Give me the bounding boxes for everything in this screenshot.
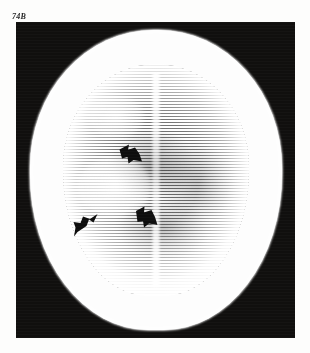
scan-image-frame [16, 22, 295, 338]
brain-parenchyma [63, 64, 249, 296]
tissue-vignette [63, 64, 249, 296]
figure-label: 74B [12, 12, 26, 22]
page-canvas: 74B [0, 0, 310, 353]
skull-outline [30, 30, 282, 330]
